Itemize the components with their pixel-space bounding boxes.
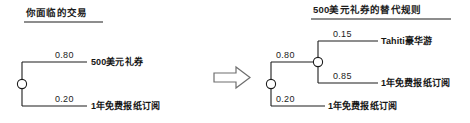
left-branch-upper-probability: 0.80 [55, 51, 74, 60]
right-branch-lower-probability: 0.20 [276, 95, 295, 104]
diagram-canvas: 你面临的交易 500美元礼券的替代规则 0.80 500美元礼券 0.20 1年… [0, 0, 470, 123]
right-branch-upper-probability: 0.80 [276, 51, 295, 60]
left-branch-lower-probability: 0.20 [55, 95, 74, 104]
right-chance-node-icon [266, 79, 275, 88]
right-arrow-icon [214, 67, 250, 88]
right-subbranch-upper-outcome: Tahiti豪华游 [381, 37, 432, 46]
right-sub-chance-node-icon [313, 57, 322, 66]
right-panel-title: 500美元礼券的替代规则 [313, 5, 421, 15]
diagram-vector-layer [0, 0, 470, 123]
left-tree [17, 62, 87, 106]
right-subbranch-lower-probability: 0.85 [333, 72, 352, 81]
left-branch-upper-outcome: 500美元礼券 [91, 58, 143, 67]
right-branch-lower-outcome: 1年免费报纸订阅 [328, 102, 397, 111]
right-subbranch-upper-probability: 0.15 [333, 30, 352, 39]
left-panel-title: 你面临的交易 [26, 8, 87, 18]
right-subbranch-lower-outcome: 1年免费报纸订阅 [381, 79, 450, 88]
left-chance-node-icon [17, 79, 26, 88]
left-branch-lower-outcome: 1年免费报纸订阅 [91, 102, 160, 111]
